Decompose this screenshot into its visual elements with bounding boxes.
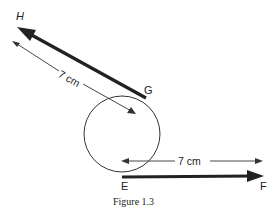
vector-gh: [17, 27, 146, 98]
vector-ef: [122, 170, 264, 182]
measurement-lower: 7 cm: [178, 155, 201, 167]
label-h: H: [16, 10, 24, 22]
arrowhead-h-icon: [17, 27, 36, 41]
label-e: E: [121, 180, 128, 192]
measurement-upper: 7 cm: [56, 67, 82, 89]
label-g: G: [144, 84, 153, 96]
label-f: F: [260, 180, 267, 192]
figure-diagram: H G E F 7 cm 7 cm Figure 1.3: [0, 0, 277, 210]
figure-caption: Figure 1.3: [113, 196, 154, 207]
